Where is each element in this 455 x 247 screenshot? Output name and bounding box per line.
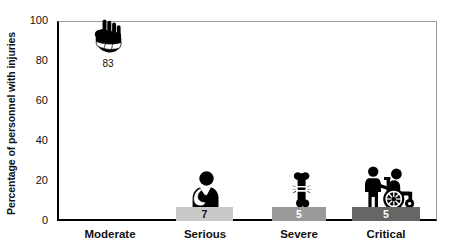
bar-severe: 5 <box>272 207 326 221</box>
x-label-critical: Critical <box>346 228 426 244</box>
injury-severity-pictogram-chart: Percentage of personnel with injuries 10… <box>0 0 455 247</box>
bar-critical: 5 <box>352 207 420 221</box>
x-label-moderate: Moderate <box>70 228 150 244</box>
x-label-serious: Serious <box>165 228 245 244</box>
y-tick-label-60: 60 <box>0 94 57 108</box>
broken-bone-icon <box>291 171 317 209</box>
bar-value-critical: 5 <box>383 209 389 220</box>
y-axis-title: Percentage of personnel with injuries <box>0 0 22 247</box>
y-tick-label-40: 40 <box>0 134 57 148</box>
bar-value-severe: 5 <box>296 209 302 220</box>
arm-sling-person-icon <box>189 171 221 209</box>
bar-value-serious: 7 <box>202 209 208 220</box>
y-tick-label-80: 80 <box>0 54 57 68</box>
y-tick-label-0: 0 <box>0 214 57 228</box>
x-label-severe: Severe <box>259 228 339 244</box>
moderate-value-label: 83 <box>88 58 128 69</box>
y-tick-label-100: 100 <box>0 14 57 28</box>
y-tick-label-20: 20 <box>0 174 57 188</box>
bandaged-hand-icon <box>91 19 125 55</box>
bar-serious: 7 <box>176 207 233 221</box>
wheelchair-person-icon <box>364 166 416 210</box>
